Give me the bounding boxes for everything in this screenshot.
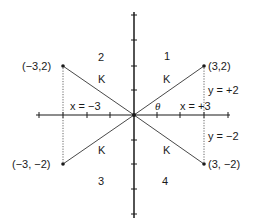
quadrant-label-4: 4 xyxy=(162,175,168,187)
hypotenuse-label-q4: K xyxy=(163,144,170,156)
angle-label-theta: θ xyxy=(155,100,160,112)
point-label-q3: (−3, −2) xyxy=(12,158,51,170)
x-pos-label: x = +3 xyxy=(180,100,211,112)
coordinate-diagram xyxy=(0,0,260,224)
quadrant-label-3: 3 xyxy=(98,175,104,187)
point-q1 xyxy=(202,64,206,68)
point-q3 xyxy=(61,162,65,166)
y-pos-label: y = +2 xyxy=(208,84,239,96)
hypotenuse-label-q1: K xyxy=(163,73,170,85)
quadrant-label-1: 1 xyxy=(164,50,170,62)
point-label-q1: (3,2) xyxy=(208,60,231,72)
point-q4 xyxy=(202,162,206,166)
hypotenuse-label-q3: K xyxy=(98,144,105,156)
point-label-q4: (3, −2) xyxy=(208,158,240,170)
x-neg-label: x = −3 xyxy=(70,100,101,112)
origin-dot xyxy=(132,113,136,117)
quadrant-label-2: 2 xyxy=(98,51,104,63)
point-label-q2: (−3,2) xyxy=(22,60,51,72)
hypotenuse-label-q2: K xyxy=(98,73,105,85)
point-q2 xyxy=(61,64,65,68)
y-neg-label: y = −2 xyxy=(208,130,239,142)
